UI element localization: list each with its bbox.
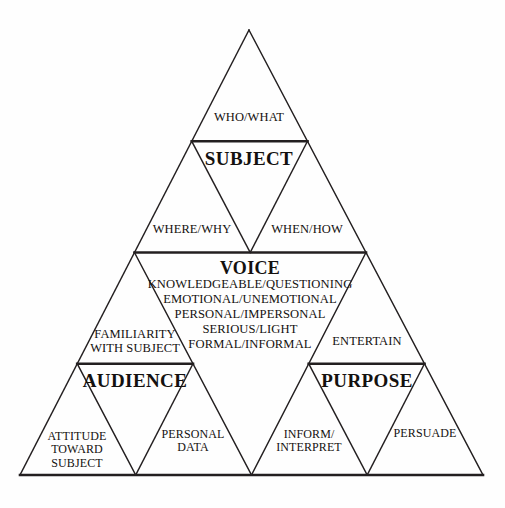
cell-entertain: ENTERTAIN — [332, 334, 401, 348]
cell-purpose: PURPOSE — [321, 370, 412, 391]
diagram-label-layer: WHO/WHAT SUBJECT WHERE/WHY WHEN/HOW VOIC… — [0, 0, 505, 508]
cell-where-why: WHERE/WHY — [153, 222, 232, 236]
cell-inform-interpret: INFORM/ INTERPRET — [276, 428, 342, 455]
cell-attitude-toward-subject: ATTITUDE TOWARD SUBJECT — [48, 430, 107, 470]
cell-audience: AUDIENCE — [83, 370, 188, 391]
cell-personal-data: PERSONAL DATA — [162, 428, 225, 455]
cell-when-how: WHEN/HOW — [271, 222, 343, 236]
cell-persuade: PERSUADE — [394, 427, 457, 440]
rhetorical-triangle-diagram: WHO/WHAT SUBJECT WHERE/WHY WHEN/HOW VOIC… — [0, 0, 505, 508]
cell-familiarity-with-subject: FAMILIARITY WITH SUBJECT — [90, 327, 180, 355]
cell-subject: SUBJECT — [205, 148, 293, 169]
cell-voice: VOICE — [220, 258, 280, 278]
cell-who-what: WHO/WHAT — [214, 110, 284, 124]
